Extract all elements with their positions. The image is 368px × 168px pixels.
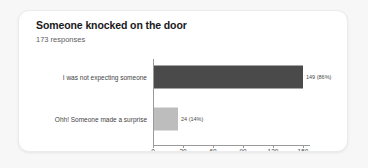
x-axis-line xyxy=(153,145,310,146)
x-axis-tick-label: 60 xyxy=(209,148,216,152)
x-axis-tick-label: 90 xyxy=(239,148,246,152)
bar-chart-plot: I was not expecting someone 149 (86%) Oh… xyxy=(19,49,348,152)
bar-category-label: Ohh! Someone made a surprise xyxy=(55,116,147,123)
bar-value-label: 24 (14%) xyxy=(181,116,203,122)
bar-row: Ohh! Someone made a surprise 24 (14%) xyxy=(19,99,348,139)
page-title: Someone knocked on the door xyxy=(36,19,187,31)
x-axis-tick-label: 0 xyxy=(151,148,155,152)
x-axis-tick-label: 150 xyxy=(298,148,309,152)
screenshot-root: Someone knocked on the door 173 response… xyxy=(0,0,368,168)
bar-segment[interactable] xyxy=(154,108,178,131)
bar-value-label: 149 (86%) xyxy=(306,74,331,80)
x-axis-tick-label: 30 xyxy=(179,148,186,152)
bar-category-label: I was not expecting someone xyxy=(63,74,147,81)
bar-row: I was not expecting someone 149 (86%) xyxy=(19,57,348,97)
response-count-label: 173 responses xyxy=(36,35,85,44)
chart-card: Someone knocked on the door 173 response… xyxy=(18,10,348,152)
x-axis-tick-label: 120 xyxy=(268,148,279,152)
bar-segment[interactable] xyxy=(154,66,303,89)
